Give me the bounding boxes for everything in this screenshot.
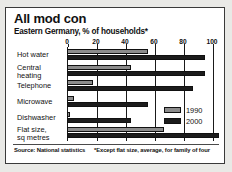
footnote: *Except flat size, average, for family o… — [94, 147, 210, 153]
bar-2000 — [67, 133, 219, 138]
legend-swatch-2000 — [164, 118, 181, 124]
bar-1990 — [67, 112, 70, 117]
source-note: Source: National statistics — [14, 147, 85, 153]
bar-1990 — [67, 96, 74, 101]
chart-card: All mod con Eastern Germany, % of househ… — [5, 7, 225, 164]
x-tick-label-20: 20 — [92, 38, 99, 45]
legend-label-1990: 1990 — [186, 106, 202, 115]
category-label: Flat size, sq metres — [17, 126, 49, 142]
bar-group — [67, 78, 218, 94]
bar-group — [67, 63, 218, 79]
chart-plot-area: 020406080100 Hot waterCentral heatingTel… — [14, 38, 218, 141]
footer-divider — [13, 144, 219, 145]
legend-swatch-1990 — [164, 107, 181, 113]
x-tick-label-60: 60 — [150, 38, 157, 45]
x-axis-tick-labels: 020406080100 — [67, 38, 218, 47]
x-tick-label-40: 40 — [121, 38, 128, 45]
bar-2000 — [67, 118, 131, 123]
bar-2000 — [67, 86, 193, 91]
bar-1990 — [67, 49, 148, 54]
chart-row: Telephone — [14, 78, 218, 94]
bar-1990 — [67, 127, 164, 132]
x-tick-label-80: 80 — [179, 38, 186, 45]
chart-row: Central heating — [14, 63, 218, 79]
category-label: Hot water — [17, 51, 49, 59]
bar-1990 — [67, 65, 131, 70]
legend-label-2000: 2000 — [186, 117, 202, 126]
bar-group — [67, 47, 218, 63]
chart-subtitle: Eastern Germany, % of households* — [14, 27, 148, 36]
page-title: All mod con — [14, 11, 86, 26]
chart-row: Hot water — [14, 47, 218, 63]
chart-legend: 1990 2000 — [164, 106, 220, 128]
category-label: Dishwasher — [17, 114, 56, 122]
category-label: Central heating — [17, 64, 41, 80]
category-label: Telephone — [17, 82, 51, 90]
chart-footer: Source: National statistics *Except flat… — [6, 144, 226, 164]
bar-1990 — [67, 80, 93, 85]
bar-2000 — [67, 71, 205, 76]
bar-2000 — [67, 55, 205, 60]
legend-item-2000: 2000 — [164, 117, 220, 126]
bar-2000 — [67, 102, 148, 107]
category-label: Microwave — [17, 98, 52, 106]
legend-item-1990: 1990 — [164, 106, 220, 115]
x-tick-label-100: 100 — [206, 38, 217, 45]
